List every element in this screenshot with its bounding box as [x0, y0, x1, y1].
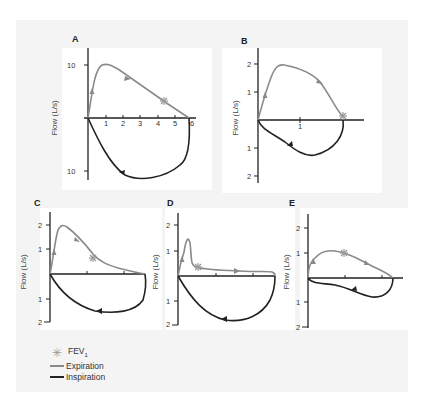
legend-item-inspiration: Inspiration — [50, 372, 105, 383]
svg-text:1: 1 — [38, 245, 42, 254]
legend-expiration-label: Expiration — [66, 361, 104, 372]
panel-label-e: E — [289, 198, 295, 208]
svg-text:1: 1 — [247, 144, 251, 153]
svg-text:2: 2 — [121, 119, 125, 128]
flow-volume-figure: 123 456 1010 21 12 1 — [0, 0, 423, 403]
legend-fev1-label: FEV1 — [68, 346, 88, 361]
svg-text:1: 1 — [38, 295, 42, 304]
svg-text:10: 10 — [67, 61, 75, 70]
y-axis-label-b: Flow (L/s) — [231, 100, 240, 135]
panel-label-a: A — [72, 34, 79, 44]
svg-text:2: 2 — [247, 172, 251, 181]
svg-text:2: 2 — [247, 60, 251, 69]
y-axis-label-d: Flow (L/s) — [151, 254, 160, 289]
svg-text:2: 2 — [296, 323, 300, 332]
svg-text:1: 1 — [298, 122, 302, 131]
svg-text:2: 2 — [296, 224, 300, 233]
y-axis-label-c: Flow (L/s) — [19, 254, 28, 289]
svg-text:1: 1 — [296, 298, 300, 307]
svg-text:2: 2 — [166, 320, 170, 329]
svg-text:1: 1 — [296, 249, 300, 258]
panel-label-c: C — [34, 198, 41, 208]
svg-text:6: 6 — [190, 119, 194, 128]
legend: ✳ FEV1 Expiration Inspiration — [50, 346, 105, 383]
expiration-line-swatch — [50, 365, 64, 367]
inspiration-line-swatch — [50, 376, 64, 378]
svg-text:3: 3 — [138, 119, 142, 128]
plot-area-e — [300, 208, 408, 330]
legend-item-expiration: Expiration — [50, 361, 105, 372]
y-axis-label-e: Flow (L/s) — [282, 254, 291, 289]
svg-text:10: 10 — [67, 167, 75, 176]
panel-label-d: D — [167, 198, 174, 208]
panel-label-b: B — [241, 36, 248, 46]
svg-text:1: 1 — [104, 119, 108, 128]
legend-inspiration-label: Inspiration — [66, 372, 105, 383]
svg-text:4: 4 — [156, 119, 160, 128]
svg-text:1: 1 — [166, 247, 170, 256]
legend-item-fev1: ✳ FEV1 — [50, 346, 105, 361]
plot-area-d — [165, 208, 295, 330]
svg-text:2: 2 — [38, 318, 42, 327]
y-axis-label-a: Flow (L/s) — [50, 100, 59, 135]
svg-text:1: 1 — [247, 88, 251, 97]
svg-text:2: 2 — [166, 221, 170, 230]
svg-text:5: 5 — [173, 119, 177, 128]
svg-text:1: 1 — [166, 297, 170, 306]
svg-text:2: 2 — [38, 221, 42, 230]
asterisk-icon: ✳ — [52, 348, 62, 359]
